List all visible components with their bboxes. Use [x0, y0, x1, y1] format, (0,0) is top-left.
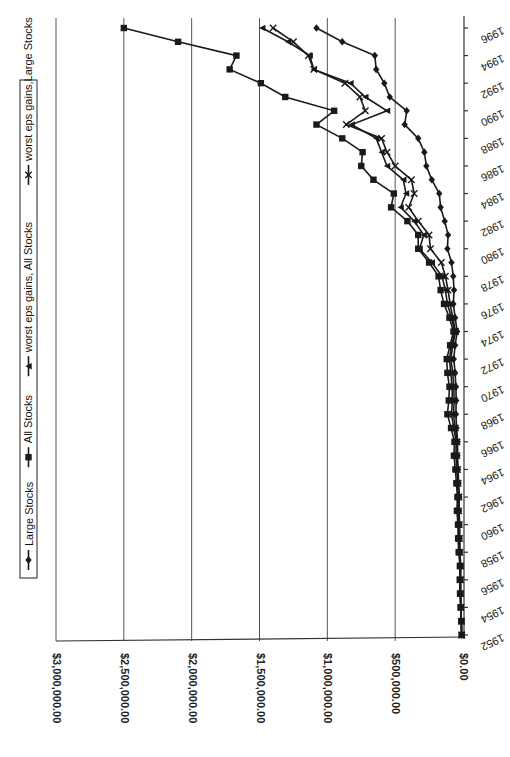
year-tick-label: 1978 [479, 273, 506, 294]
legend-label: worst eps gains, All Stocks [23, 221, 35, 353]
year-tick-label: 1990 [479, 108, 506, 129]
value-tick-label: $0.00 [458, 653, 470, 681]
value-axis [56, 637, 465, 641]
series-all-stocks [121, 25, 465, 638]
square-marker-icon [404, 218, 410, 224]
year-tick-label: 1994 [479, 53, 506, 74]
year-axis-labels: 1952195419561958196019621964196619681970… [464, 25, 506, 653]
value-tick-label: $500,000.00 [390, 653, 402, 714]
square-marker-icon [25, 454, 31, 460]
diamond-marker-icon [313, 24, 319, 32]
year-tick-label: 1964 [479, 466, 506, 487]
value-tick-label: $2,500,000.00 [119, 653, 131, 723]
value-tick-label: $2,000,000.00 [187, 653, 199, 723]
square-marker-icon [121, 25, 127, 31]
series-worst-eps-gains-large-stocks [270, 25, 465, 638]
rotated-line-chart: $0.00$500,000.00$1,000,000.00$1,500,000.… [0, 0, 510, 757]
legend-label: All Stocks [23, 394, 35, 443]
square-marker-icon [339, 135, 345, 141]
value-gridlines [56, 18, 395, 641]
diamond-marker-icon [339, 38, 345, 46]
square-marker-icon [313, 121, 319, 127]
square-marker-icon [226, 66, 232, 72]
diamond-marker-icon [421, 148, 427, 156]
diamond-marker-icon [445, 231, 451, 239]
year-tick-label: 1960 [479, 522, 506, 543]
year-tick-label: 1996 [479, 25, 506, 46]
square-marker-icon [233, 52, 239, 58]
year-tick-label: 1970 [479, 384, 506, 405]
year-tick-label: 1972 [479, 356, 506, 377]
square-marker-icon [282, 94, 288, 100]
diamond-marker-icon [444, 245, 450, 253]
year-tick-label: 1956 [479, 577, 506, 598]
axes [56, 16, 465, 641]
diamond-marker-icon [450, 273, 456, 281]
square-marker-icon [391, 190, 397, 196]
year-tick-label: 1962 [479, 494, 506, 515]
series-large-stocks [313, 24, 465, 639]
square-marker-icon [358, 163, 364, 169]
year-tick-label: 1982 [479, 218, 506, 239]
square-marker-icon [359, 149, 365, 155]
square-marker-icon [258, 80, 264, 86]
data-series [121, 24, 465, 639]
legend-item: worst eps gains, All Stocks [23, 221, 35, 376]
year-tick-label: 1980 [479, 246, 506, 267]
series-worst-eps-gains-all-stocks [259, 25, 465, 638]
legend-label: worst eps gains,Large Stocks [23, 17, 35, 162]
year-tick-label: 1988 [479, 135, 506, 156]
diamond-marker-icon [372, 52, 378, 60]
year-tick-label: 1974 [479, 329, 506, 350]
legend-label: Large Stocks [23, 481, 35, 546]
square-marker-icon [175, 39, 181, 45]
triangle-marker-icon [397, 204, 403, 210]
triangle-marker-icon [384, 163, 390, 169]
year-tick-label: 1992 [479, 80, 506, 101]
square-marker-icon [370, 177, 376, 183]
value-tick-label: $1,500,000.00 [255, 653, 267, 723]
year-tick-label: 1958 [479, 549, 506, 570]
square-marker-icon [388, 204, 394, 210]
year-tick-label: 1952 [479, 632, 506, 653]
year-tick-label: 1954 [479, 604, 506, 625]
value-axis-labels: $0.00$500,000.00$1,000,000.00$1,500,000.… [51, 653, 470, 723]
year-tick-label: 1986 [479, 163, 506, 184]
legend-item: worst eps gains,Large Stocks [23, 17, 35, 185]
diamond-marker-icon [451, 286, 457, 294]
value-tick-label: $1,000,000.00 [322, 653, 334, 723]
year-tick-label: 1984 [479, 191, 506, 212]
year-tick-label: 1976 [479, 301, 506, 322]
value-tick-label: $3,000,000.00 [51, 653, 63, 723]
year-tick-label: 1968 [479, 411, 506, 432]
diamond-marker-icon [437, 204, 443, 212]
diamond-marker-icon [448, 259, 454, 267]
legend: Large StocksAll Stocksworst eps gains, A… [20, 17, 37, 578]
diamond-marker-icon [441, 217, 447, 225]
square-marker-icon [331, 108, 337, 114]
year-tick-label: 1966 [479, 439, 506, 460]
diamond-marker-icon [423, 162, 429, 170]
